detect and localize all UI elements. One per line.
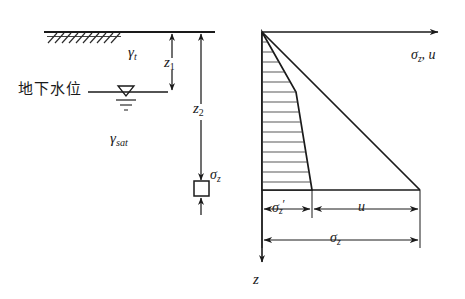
element-stress-label: σz (210, 168, 221, 184)
depth-z1-label: z1 (164, 55, 175, 71)
depth-z2-label: z2 (193, 101, 204, 117)
water-table-symbol-icon (116, 86, 136, 110)
ground-surface-group (44, 32, 215, 43)
unit-weight-saturated-label: γsat (110, 131, 128, 148)
water-table-group (88, 86, 168, 110)
effective-stress-label: σz′ (272, 199, 285, 217)
figure-canvas: 地下水位 γt γsat z1 z2 σz σz, u z σz′ u σz (0, 0, 465, 299)
ground-hatching-icon (47, 33, 121, 43)
horizontal-axis-label: σz, u (411, 48, 436, 64)
water-table-text-label: 地下水位 (18, 82, 82, 97)
vertical-axis-label: z (253, 272, 259, 287)
total-stress-label: σz (330, 231, 341, 247)
dimension-extension-lines (262, 190, 420, 248)
diagram-svg (0, 0, 465, 299)
unit-weight-total-label: γt (128, 45, 137, 62)
soil-element-group (194, 168, 209, 215)
effective-stress-outline (262, 32, 312, 190)
soil-element-box (194, 181, 209, 196)
pore-pressure-label: u (358, 200, 365, 214)
effective-stress-wedge (262, 32, 312, 190)
